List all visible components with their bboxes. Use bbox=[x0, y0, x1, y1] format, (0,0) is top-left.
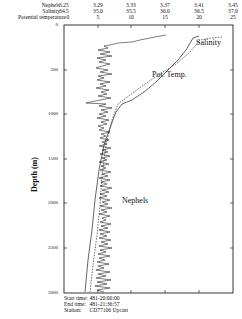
station: Station: CD77106 Upcast bbox=[64, 307, 128, 313]
station-key: Station: bbox=[64, 307, 88, 313]
salinity-label: Salinity bbox=[196, 38, 221, 47]
pot-temp-label: Pot. Temp. bbox=[152, 70, 187, 79]
plot-area bbox=[0, 0, 242, 319]
plot-frame bbox=[64, 25, 233, 293]
station-value: CD77106 Upcast bbox=[89, 307, 128, 313]
bottom-ticks bbox=[98, 290, 199, 293]
side-ticks bbox=[64, 70, 233, 248]
nephels-label: Nephels bbox=[122, 196, 148, 205]
